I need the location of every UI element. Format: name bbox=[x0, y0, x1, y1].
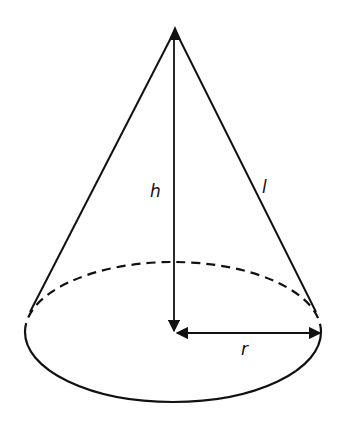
base-front-arc bbox=[25, 332, 321, 402]
height-label: h bbox=[150, 181, 161, 201]
slant-label: l bbox=[262, 177, 267, 197]
cone-diagram: h l r bbox=[0, 0, 341, 423]
right-slant-edge bbox=[175, 30, 316, 312]
apex-marker bbox=[169, 26, 181, 40]
radius-label: r bbox=[241, 339, 249, 359]
base-back-arc bbox=[25, 262, 321, 332]
